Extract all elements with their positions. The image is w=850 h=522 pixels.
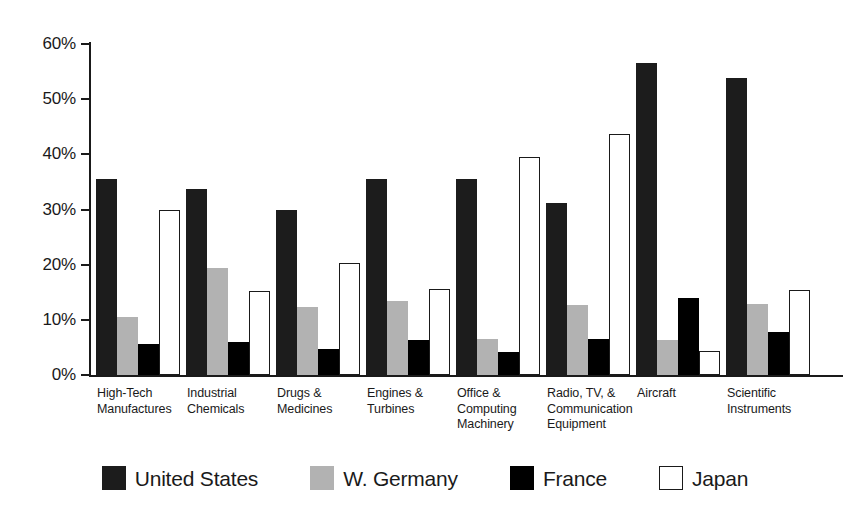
y-tick-mark <box>81 264 90 266</box>
bar-wg <box>117 317 138 375</box>
bar-group-bars <box>186 44 270 375</box>
bar-us <box>636 63 657 375</box>
bar-group-bars <box>276 44 360 375</box>
category-label-line: Equipment <box>547 417 635 433</box>
bar-jp <box>789 290 810 376</box>
y-tick-mark <box>81 43 90 45</box>
category-label: IndustrialChemicals <box>187 386 275 417</box>
category-label-line: Computing <box>457 402 545 418</box>
bar-fr <box>768 332 789 375</box>
category-label-line: Manufactures <box>97 402 185 418</box>
category-label: Office &ComputingMachinery <box>457 386 545 433</box>
category-label-line: Chemicals <box>187 402 275 418</box>
category-label-line: Office & <box>457 386 545 402</box>
bar-group-bars <box>636 44 720 375</box>
bar-group-bars <box>546 44 630 375</box>
bar-fr <box>228 342 249 375</box>
category-label-line: Drugs & <box>277 386 365 402</box>
bar-fr <box>408 340 429 375</box>
bar-us <box>186 189 207 375</box>
bar-fr <box>138 344 159 375</box>
legend-item-fr[interactable]: France <box>510 466 607 490</box>
bar-wg <box>207 268 228 375</box>
y-tick-mark <box>81 98 90 100</box>
bar-us <box>96 179 117 375</box>
bar-wg <box>657 340 678 375</box>
legend-item-us[interactable]: United States <box>102 466 258 490</box>
bar-fr <box>588 339 609 375</box>
y-tick-label: 40% <box>0 145 76 162</box>
category-label-line: High-Tech <box>97 386 185 402</box>
legend-label: Japan <box>692 468 748 489</box>
y-tick-label: 30% <box>0 201 76 218</box>
chart-legend: United StatesW. GermanyFranceJapan <box>0 466 850 490</box>
category-label-line: Engines & <box>367 386 455 402</box>
bar-jp <box>429 289 450 375</box>
category-label-line: Instruments <box>727 402 815 418</box>
category-label: ScientificInstruments <box>727 386 815 417</box>
legend-swatch-icon <box>102 466 126 490</box>
y-tick-label: 60% <box>0 35 76 52</box>
bar-jp <box>249 291 270 375</box>
bar-wg <box>567 305 588 375</box>
bar-fr <box>318 349 339 375</box>
legend-label: United States <box>135 468 258 489</box>
y-tick-label-text: 30% <box>16 201 76 218</box>
category-label: Radio, TV, &CommunicationEquipment <box>547 386 635 433</box>
legend-label: W. Germany <box>343 468 458 489</box>
plot-area <box>90 44 843 375</box>
bar-group-bars <box>96 44 180 375</box>
y-tick-label-text: 20% <box>16 256 76 273</box>
legend-item-wg[interactable]: W. Germany <box>310 466 458 490</box>
category-label-line: Communication <box>547 402 635 418</box>
y-tick-mark <box>81 209 90 211</box>
bar-wg <box>387 301 408 375</box>
y-tick-label-text: 40% <box>16 145 76 162</box>
y-tick-label-text: 60% <box>16 35 76 52</box>
bar-wg <box>477 339 498 375</box>
bar-fr <box>678 298 699 375</box>
bar-wg <box>297 307 318 375</box>
bar-jp <box>339 263 360 375</box>
category-label-line: Medicines <box>277 402 365 418</box>
category-label: Aircraft <box>637 386 725 402</box>
y-tick-label: 10% <box>0 311 76 328</box>
category-label: High-TechManufactures <box>97 386 185 417</box>
bar-group-bars <box>366 44 450 375</box>
bar-jp <box>519 157 540 375</box>
category-label-line: Machinery <box>457 417 545 433</box>
bar-us <box>726 78 747 375</box>
category-label: Engines &Turbines <box>367 386 455 417</box>
bar-jp <box>159 210 180 376</box>
y-tick-label-text: 0% <box>16 366 76 383</box>
bar-wg <box>747 304 768 375</box>
legend-swatch-icon <box>310 466 334 490</box>
category-label: Drugs &Medicines <box>277 386 365 417</box>
bar-us <box>546 203 567 375</box>
x-axis-line <box>89 375 843 377</box>
bar-jp <box>609 134 630 375</box>
legend-swatch-icon <box>659 466 683 490</box>
bar-chart: 0%10%20%30%40%50%60% High-TechManufactur… <box>0 0 850 522</box>
legend-label: France <box>543 468 607 489</box>
category-label-line: Scientific <box>727 386 815 402</box>
bar-group-bars <box>456 44 540 375</box>
y-tick-mark <box>81 153 90 155</box>
legend-item-jp[interactable]: Japan <box>659 466 748 490</box>
category-label-line: Turbines <box>367 402 455 418</box>
y-tick-mark <box>81 374 90 376</box>
bar-us <box>366 179 387 375</box>
y-tick-label-text: 10% <box>16 311 76 328</box>
legend-swatch-icon <box>510 466 534 490</box>
category-label-line: Radio, TV, & <box>547 386 635 402</box>
category-label-line: Aircraft <box>637 386 725 402</box>
y-tick-label: 20% <box>0 256 76 273</box>
y-tick-label: 50% <box>0 90 76 107</box>
y-tick-label: 0% <box>0 366 76 383</box>
bar-us <box>276 210 297 376</box>
category-label-line: Industrial <box>187 386 275 402</box>
bar-fr <box>498 352 519 375</box>
bar-us <box>456 179 477 375</box>
y-tick-mark <box>81 319 90 321</box>
bar-jp <box>699 351 720 375</box>
